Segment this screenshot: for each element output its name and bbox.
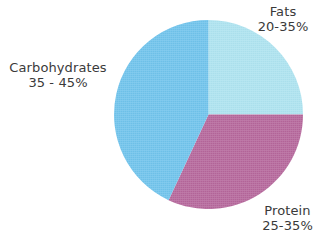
pie-label-protein: Protein 25-35% (250, 203, 325, 233)
pie-label-fats: Fats 20-35% (241, 4, 325, 34)
pie-label-fats-name: Fats (241, 4, 325, 19)
pie-slice-fats (209, 20, 304, 115)
pie-label-protein-name: Protein (250, 203, 325, 218)
pie-label-carbohydrates: Carbohydrates 35 - 45% (2, 60, 114, 90)
pie-label-protein-value: 25-35% (250, 218, 325, 233)
pie-graphic (114, 20, 303, 209)
pie-chart: Fats 20-35% Carbohydrates 35 - 45% Prote… (0, 0, 325, 243)
pie-label-carbohydrates-name: Carbohydrates (2, 60, 114, 75)
pie-label-fats-value: 20-35% (241, 19, 325, 34)
pie-svg (114, 20, 303, 209)
pie-label-carbohydrates-value: 35 - 45% (2, 75, 114, 90)
